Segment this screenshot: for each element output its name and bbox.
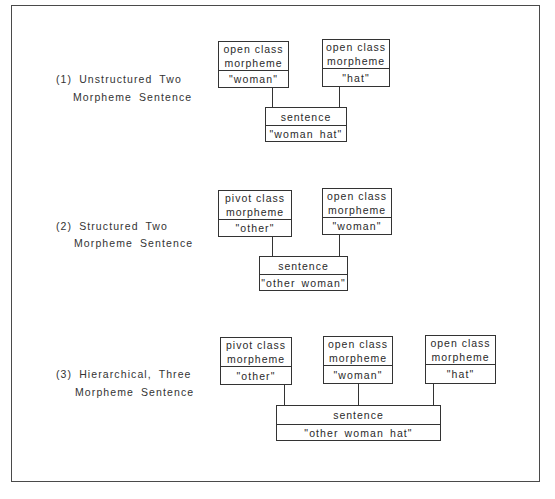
class-line2: morpheme (329, 351, 387, 365)
class-line2: morpheme (227, 352, 285, 366)
sentence-box: sentence "woman hat" (265, 107, 347, 142)
class-line1: open class (223, 42, 283, 56)
sentence-box: sentence "other woman hat" (276, 405, 441, 441)
morpheme-value: "other" (221, 366, 291, 384)
class-line1: pivot class (226, 338, 286, 352)
morpheme-class: open class morpheme (219, 42, 288, 70)
class-line1: open class (430, 336, 490, 350)
morpheme-class: pivot class morpheme (219, 191, 291, 219)
morpheme-class: open class morpheme (426, 336, 495, 364)
diagram-3-label-line2: Morpheme Sentence (75, 386, 194, 398)
connector-line (358, 384, 359, 405)
morpheme-class: pivot class morpheme (221, 338, 291, 366)
connector-line (433, 384, 434, 405)
morpheme-value: "hat" (323, 68, 389, 86)
morpheme-class: open class morpheme (324, 337, 392, 365)
morpheme-class: open class morpheme (323, 189, 391, 217)
connector-line (272, 237, 273, 256)
class-line1: open class (327, 189, 387, 203)
diagram-3-label-line1: (3) Hierarchical, Three (56, 368, 192, 380)
morpheme-value: "woman" (323, 217, 391, 234)
morpheme-box-woman: open class morpheme "woman" (218, 41, 289, 88)
morpheme-value: "other" (219, 219, 291, 236)
morpheme-value: "woman" (219, 70, 288, 87)
class-line1: pivot class (225, 191, 285, 205)
class-line2: morpheme (327, 54, 385, 68)
class-line1: open class (326, 40, 386, 54)
morpheme-class: open class morpheme (323, 40, 389, 68)
class-line1: open class (328, 337, 388, 351)
sentence-label: sentence (266, 108, 346, 125)
class-line2: morpheme (431, 350, 489, 364)
diagram-2-label-line1: (2) Structured Two (56, 220, 168, 232)
diagram-2-label-line2: Morpheme Sentence (74, 237, 193, 249)
sentence-box: sentence "other woman" (259, 256, 348, 291)
morpheme-value: "hat" (426, 364, 495, 383)
connector-line (339, 235, 340, 256)
morpheme-box-woman: open class morpheme "woman" (323, 336, 393, 384)
morpheme-box-hat: open class morpheme "hat" (425, 335, 496, 384)
sentence-label: sentence (260, 257, 347, 274)
connector-line (272, 88, 273, 107)
diagram-1-label-line1: (1) Unstructured Two (56, 73, 182, 85)
diagram-1-label-line2: Morpheme Sentence (73, 91, 192, 103)
class-line2: morpheme (224, 56, 282, 70)
morpheme-value: "woman" (324, 365, 392, 383)
sentence-label: sentence (277, 406, 440, 424)
sentence-value: "woman hat" (266, 125, 346, 141)
morpheme-box-other: pivot class morpheme "other" (218, 190, 292, 237)
connector-line (339, 87, 340, 107)
sentence-value: "other woman" (260, 274, 347, 290)
class-line2: morpheme (226, 205, 284, 219)
class-line2: morpheme (328, 203, 386, 217)
sentence-value: "other woman hat" (277, 424, 440, 440)
morpheme-box-woman: open class morpheme "woman" (322, 188, 392, 235)
morpheme-box-other: pivot class morpheme "other" (220, 337, 292, 385)
morpheme-box-hat: open class morpheme "hat" (322, 39, 390, 87)
connector-line (284, 385, 285, 405)
